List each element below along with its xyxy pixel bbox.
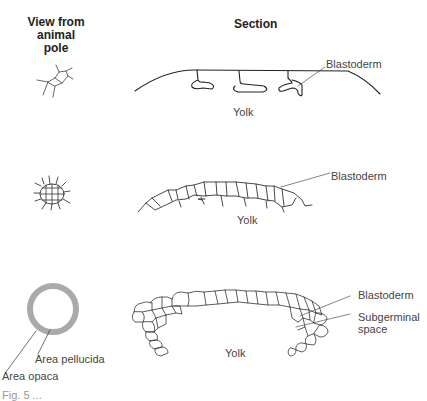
label-area-pellucida: Area pellucida	[35, 353, 105, 365]
label-blastoderm-3: Blastoderm	[358, 289, 414, 301]
label-subgerminal-line1: Subgerminal	[358, 311, 420, 323]
subgerminal-leader	[296, 314, 350, 327]
label-subgerminal-space: Subgerminal space	[358, 311, 420, 335]
label-subgerminal-line2: space	[358, 323, 420, 335]
label-yolk-2: Yolk	[237, 214, 257, 226]
label-yolk-1: Yolk	[233, 106, 253, 118]
label-area-opaca: Area opaca	[2, 370, 58, 382]
area-pellucida-leader	[38, 330, 50, 354]
label-yolk-3: Yolk	[225, 347, 245, 359]
animal-pole-view-stage1	[37, 65, 73, 97]
animal-pole-view-stage2	[34, 176, 70, 210]
area-opaca-leader	[6, 331, 36, 372]
label-blastoderm-2: Blastoderm	[331, 170, 387, 182]
section-stage2	[138, 182, 312, 212]
figure-caption: Fig. 5 ...	[2, 389, 42, 401]
area-opaca-ring	[30, 286, 76, 332]
section-stage1	[135, 70, 380, 96]
blastoderm-leader-1	[298, 67, 325, 86]
label-blastoderm-1: Blastoderm	[326, 58, 382, 70]
blastoderm-leader-2	[281, 173, 330, 187]
